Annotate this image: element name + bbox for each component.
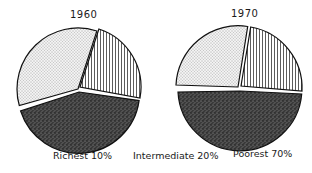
slice-1970-richest: [176, 26, 248, 87]
chart-title-1970: 1970: [231, 8, 258, 19]
legend-poorest: Poorest 70%: [233, 148, 292, 159]
pie-1960: [17, 28, 141, 153]
legend-richest: Richest 10%: [53, 150, 112, 161]
slice-1960-poorest: [21, 92, 140, 153]
pie-1970: [176, 26, 302, 151]
slice-1970-poorest: [178, 91, 302, 151]
chart-title-1960: 1960: [70, 9, 97, 20]
slice-1970-intermediate: [241, 27, 302, 91]
legend-intermediate: Intermediate 20%: [133, 150, 218, 161]
